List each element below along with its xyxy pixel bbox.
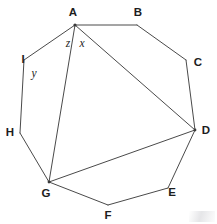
edge-b-c: [137, 25, 186, 60]
vertex-label-i: I: [21, 53, 24, 65]
angle-label-y: y: [30, 67, 37, 80]
edge-e-f: [108, 188, 168, 205]
vertex-dot-g: [48, 181, 51, 184]
edge-h-i: [20, 60, 24, 133]
angle-label-z: z: [65, 37, 71, 49]
vertex-label-e: E: [168, 186, 176, 198]
vertex-labels: A B C D E F G H I: [6, 6, 210, 221]
edge-c-d: [186, 60, 195, 130]
vertex-label-g: G: [42, 187, 51, 199]
diagonal-a-d: [75, 25, 195, 130]
vertex-label-f: F: [104, 209, 111, 221]
nonagon-diagram: A B C D E F G H I x z y: [0, 0, 217, 224]
vertex-label-d: D: [202, 124, 210, 136]
diagonal-a-g: [49, 25, 75, 182]
vertex-dot-a: [73, 23, 76, 26]
vertex-label-a: A: [69, 6, 77, 18]
vertex-label-b: B: [134, 6, 142, 18]
diagonal-g-d: [49, 130, 195, 182]
vertex-label-c: C: [194, 56, 202, 68]
edge-g-h: [20, 133, 49, 182]
vertex-dot-d: [194, 129, 197, 132]
polygon-edges: [20, 25, 195, 205]
angle-labels: x z y: [30, 37, 85, 80]
diagonal-lines: [49, 25, 195, 182]
edge-f-g: [49, 182, 108, 205]
vertex-label-h: H: [6, 126, 14, 138]
angle-label-x: x: [78, 37, 85, 49]
geometry-figure: A B C D E F G H I x z y: [0, 0, 217, 224]
